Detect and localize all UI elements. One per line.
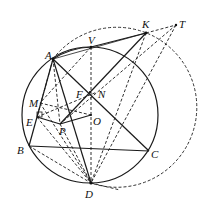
label-C: C xyxy=(151,148,159,160)
label-D: D xyxy=(84,188,93,200)
label-A: A xyxy=(44,49,52,61)
dashed-circle-arc xyxy=(53,27,197,187)
geometry-diagram: A V K T F N M E P O B C D xyxy=(0,0,209,205)
label-V: V xyxy=(88,34,96,46)
label-P: P xyxy=(58,125,66,137)
label-B: B xyxy=(17,144,24,156)
label-M: M xyxy=(28,97,39,109)
label-N: N xyxy=(97,88,106,100)
label-K: K xyxy=(141,18,150,30)
label-E: E xyxy=(25,116,33,128)
label-O: O xyxy=(93,115,101,127)
label-F: F xyxy=(75,88,83,100)
point-dots xyxy=(52,24,178,185)
label-T: T xyxy=(179,18,186,30)
